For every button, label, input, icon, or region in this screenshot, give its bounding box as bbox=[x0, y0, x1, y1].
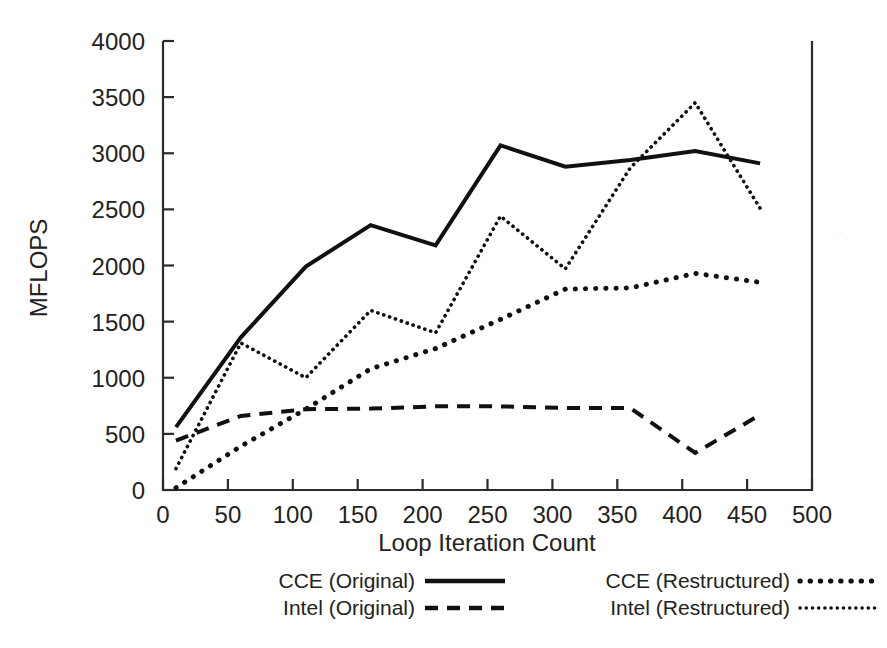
x-tick-label: 100 bbox=[273, 501, 313, 528]
x-tick-label: 500 bbox=[792, 501, 832, 528]
legend-label: CCE (Original) bbox=[278, 569, 415, 592]
chart-legend: CCE (Original)Intel (Original)CCE (Restr… bbox=[278, 569, 880, 619]
y-tick-label: 1000 bbox=[92, 365, 145, 392]
legend-label: CCE (Restructured) bbox=[606, 569, 790, 592]
legend-label: Intel (Restructured) bbox=[610, 596, 790, 619]
y-tick-label: 3500 bbox=[92, 84, 145, 111]
series-line-cce-restructured bbox=[176, 273, 760, 487]
y-tick-label: 500 bbox=[105, 421, 145, 448]
x-tick-label: 450 bbox=[727, 501, 767, 528]
mflops-line-chart: 05001000150020002500300035004000 0501001… bbox=[0, 0, 887, 648]
x-tick-label: 50 bbox=[215, 501, 242, 528]
plot-frame bbox=[163, 41, 812, 490]
chart-figure: 05001000150020002500300035004000 0501001… bbox=[0, 0, 887, 648]
y-tick-label: 2000 bbox=[92, 253, 145, 280]
y-tick-label: 3000 bbox=[92, 140, 145, 167]
y-tick-label: 4000 bbox=[92, 28, 145, 55]
x-tick-label: 400 bbox=[662, 501, 702, 528]
data-series-group bbox=[176, 103, 760, 488]
legend-label: Intel (Original) bbox=[283, 596, 415, 619]
series-line-intel-original bbox=[176, 406, 760, 453]
x-tick-label: 350 bbox=[597, 501, 637, 528]
x-tick-label: 200 bbox=[403, 501, 443, 528]
y-axis-title: MFLOPS bbox=[25, 219, 52, 318]
y-axis-ticks: 05001000150020002500300035004000 bbox=[92, 28, 174, 504]
x-tick-label: 250 bbox=[467, 501, 507, 528]
series-line-cce-original bbox=[176, 145, 760, 427]
x-axis-title: Loop Iteration Count bbox=[378, 529, 596, 556]
scan-artifact-speck bbox=[828, 228, 850, 244]
x-tick-label: 0 bbox=[156, 501, 169, 528]
x-axis-ticks: 050100150200250300350400450500 bbox=[156, 479, 832, 528]
y-tick-label: 0 bbox=[132, 477, 145, 504]
x-tick-label: 150 bbox=[338, 501, 378, 528]
y-tick-label: 2500 bbox=[92, 196, 145, 223]
x-tick-label: 300 bbox=[532, 501, 572, 528]
y-tick-label: 1500 bbox=[92, 309, 145, 336]
